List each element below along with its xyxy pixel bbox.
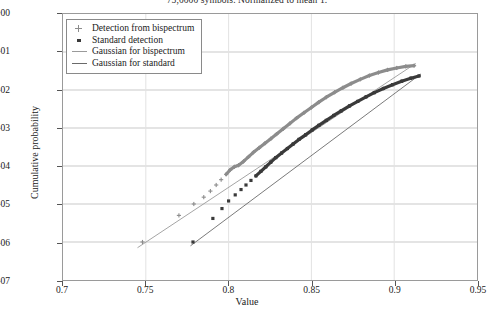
series-trace: [406, 66, 414, 67]
legend-square-marker-icon: [71, 35, 88, 46]
x-tick-label: 0.75: [137, 285, 154, 295]
y-tick-mark: [57, 204, 62, 205]
y-tick-label: 1e-04: [0, 161, 10, 171]
data-point: [220, 207, 223, 210]
x-tick-mark: [395, 281, 396, 286]
data-point: [244, 183, 247, 186]
x-tick-mark: [478, 281, 479, 286]
legend-item[interactable]: Standard detection: [71, 35, 194, 47]
y-tick-label: 1e-05: [0, 199, 10, 209]
legend-cross-marker-icon: [71, 23, 88, 34]
chart-legend: Detection from bispectrumStandard detect…: [66, 19, 202, 74]
data-point: [191, 240, 194, 243]
legend-line-icon: [71, 58, 88, 69]
data-point: [216, 183, 217, 187]
data-point: [234, 193, 237, 196]
legend-item-label: Gaussian for standard: [92, 58, 175, 70]
legend-item[interactable]: Gaussian for standard: [71, 58, 194, 70]
x-tick-label: 0.7: [56, 285, 68, 295]
legend-item[interactable]: Gaussian for bispectrum: [71, 46, 194, 58]
legend-line-icon: [71, 46, 88, 57]
data-point: [249, 179, 252, 182]
y-tick-label: 1e-06: [0, 238, 10, 248]
data-point: [178, 213, 179, 217]
legend-item-label: Standard detection: [92, 35, 163, 47]
data-point: [210, 189, 211, 193]
y-tick-label: 1e-01: [0, 46, 10, 56]
series-trace: [411, 76, 419, 78]
x-tick-label: 0.9: [389, 285, 401, 295]
data-point: [211, 217, 214, 220]
y-tick-mark: [57, 13, 62, 14]
y-tick-mark: [57, 51, 62, 52]
y-tick-label: 1e-03: [0, 123, 10, 133]
data-point: [227, 199, 230, 202]
chart-container: 75,0000 symbols. Normalized to mean 1. C…: [0, 0, 494, 314]
fit-line: [191, 74, 421, 246]
y-tick-label: 1e-07: [0, 276, 10, 286]
x-tick-label: 0.95: [470, 285, 487, 295]
y-tick-mark: [57, 90, 62, 91]
data-point: [221, 178, 222, 182]
legend-item[interactable]: Detection from bispectrum: [71, 23, 194, 35]
y-tick-mark: [57, 128, 62, 129]
y-tick-mark: [57, 243, 62, 244]
data-point: [193, 202, 194, 206]
legend-item-label: Detection from bispectrum: [92, 23, 194, 35]
data-point: [142, 240, 143, 244]
y-axis-label: Cumulative probability: [29, 106, 40, 199]
y-tick-mark: [57, 166, 62, 167]
data-point: [203, 195, 204, 199]
x-tick-mark: [228, 281, 229, 286]
x-tick-mark: [62, 281, 63, 286]
data-point: [239, 188, 242, 191]
x-axis-label: Value: [0, 296, 494, 307]
x-tick-label: 0.85: [303, 285, 320, 295]
y-tick-label: 1e+00: [0, 8, 10, 18]
legend-item-label: Gaussian for bispectrum: [92, 46, 185, 58]
x-tick-mark: [312, 281, 313, 286]
x-tick-mark: [145, 281, 146, 286]
x-tick-label: 0.8: [222, 285, 234, 295]
chart-title: 75,0000 symbols. Normalized to mean 1.: [0, 0, 494, 5]
y-tick-label: 1e-02: [0, 85, 10, 95]
